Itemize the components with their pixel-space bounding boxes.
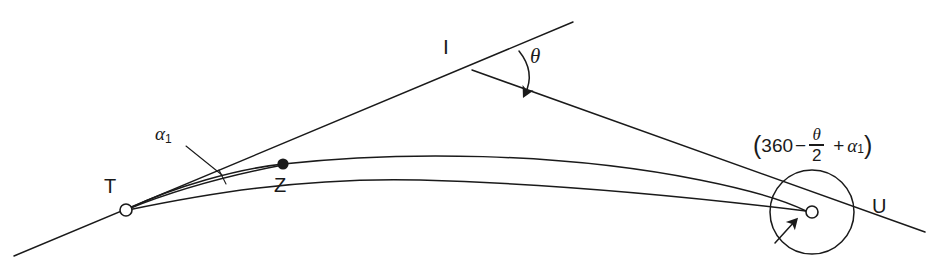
label-point-u: U: [872, 196, 886, 216]
line-T-fan-ray: [128, 165, 283, 209]
label-alpha1: α1: [155, 124, 172, 145]
label-theta: θ: [530, 46, 540, 67]
formula-fraction-denominator: 2: [812, 146, 821, 164]
label-point-z: Z: [274, 175, 286, 195]
alpha1-leader-line: [186, 146, 222, 175]
alpha1-symbol: α: [155, 123, 165, 144]
formula-fraction-numerator: θ: [812, 126, 820, 144]
label-point-i: I: [443, 36, 449, 57]
line-baseline-through-T-and-I: [14, 22, 573, 256]
formula-u-angle: (360− θ 2 +α1): [753, 126, 872, 164]
node-marker-U: [806, 206, 818, 218]
line-T-to-U: [128, 180, 806, 211]
node-marker-T: [120, 204, 132, 216]
alpha1-subscript: 1: [165, 132, 172, 146]
label-point-t: T: [104, 176, 116, 196]
formula-value-360: 360: [761, 136, 793, 155]
formula-plus-sign: +: [833, 136, 844, 155]
formula-minus-sign: −: [795, 136, 806, 155]
formula-alpha: α: [847, 136, 857, 155]
formula-alpha-subscript: 1: [857, 143, 864, 157]
diagram-canvas: T Z I U θ α1 (360− θ 2 +α1): [0, 0, 944, 276]
curve-T-through-Z-to-U: [128, 156, 806, 211]
formula-fraction-theta-over-2: θ 2: [809, 126, 824, 164]
arrow-into-U: [775, 221, 795, 243]
formula-close-paren: ): [864, 133, 872, 158]
node-marker-Z: [277, 158, 288, 169]
formula-open-paren: (: [753, 133, 761, 158]
